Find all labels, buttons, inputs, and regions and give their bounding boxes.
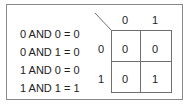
kmap-row-header-0: 0 xyxy=(94,43,108,55)
kmap-column-header-0: 0 xyxy=(118,14,132,26)
kmap-cell-r0-c0: 0 xyxy=(118,43,132,55)
kmap-cell-r0-c1: 0 xyxy=(148,43,162,55)
kmap-row-header-1: 1 xyxy=(94,73,108,85)
kmap-column-header-1: 1 xyxy=(148,14,162,26)
kmap-cell-r1-c0: 0 xyxy=(118,73,132,85)
kmap-cell-r1-c1: 1 xyxy=(148,73,162,85)
kmap-grid-horizontal-divider xyxy=(111,61,172,62)
